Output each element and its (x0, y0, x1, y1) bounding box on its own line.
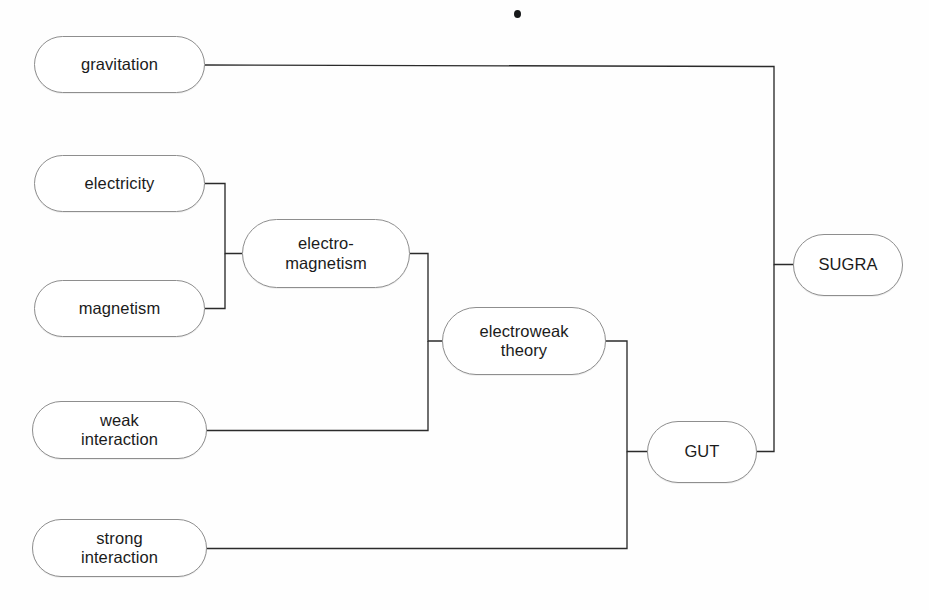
diagram-canvas: gravitation electricity magnetism weak i… (0, 0, 929, 610)
scan-speck-artifact (514, 10, 521, 18)
node-sugra-label: SUGRA (808, 255, 887, 274)
node-electricity[interactable]: electricity (34, 155, 205, 212)
edge-electroweak-to-gut (606, 341, 647, 452)
node-gravitation[interactable]: gravitation (34, 36, 205, 93)
node-magnetism-label: magnetism (69, 299, 171, 318)
node-gut[interactable]: GUT (647, 421, 757, 483)
node-weak-interaction[interactable]: weak interaction (32, 401, 207, 459)
edge-electromagnetism-to-electroweak (410, 254, 442, 342)
node-weak-interaction-label: weak interaction (71, 411, 168, 450)
edge-magnetism-to-electromagnetism (205, 254, 225, 309)
node-sugra[interactable]: SUGRA (793, 234, 903, 296)
edge-strong-to-gut (207, 452, 627, 549)
node-electroweak-theory[interactable]: electroweak theory (442, 307, 606, 375)
node-electromagnetism[interactable]: electro- magnetism (242, 219, 410, 288)
node-magnetism[interactable]: magnetism (34, 280, 205, 337)
edge-gut-to-sugra (757, 265, 774, 452)
edge-electricity-to-electromagnetism (205, 184, 242, 254)
edge-weak-to-electroweak (207, 341, 428, 431)
node-strong-interaction-label: strong interaction (71, 529, 168, 568)
node-electroweak-theory-label: electroweak theory (469, 322, 578, 361)
node-electricity-label: electricity (75, 174, 165, 193)
node-electromagnetism-label: electro- magnetism (275, 234, 377, 273)
node-gut-label: GUT (674, 442, 729, 461)
node-gravitation-label: gravitation (71, 55, 168, 74)
node-strong-interaction[interactable]: strong interaction (32, 519, 207, 577)
